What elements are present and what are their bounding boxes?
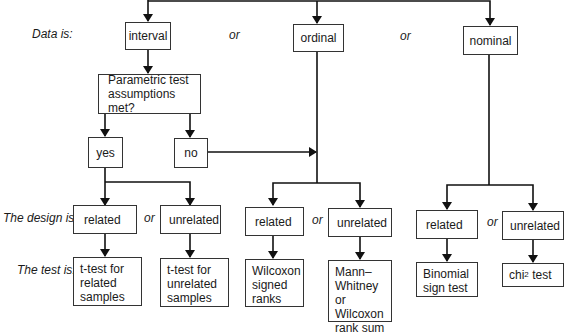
box-interval: interval [125,22,171,50]
box-design-ordinal-unrelated: unrelated [328,208,392,237]
box-parametric-question: Parametric test assumptions met? [98,74,201,114]
test-line: unrelated [167,277,217,291]
test-line: t-test for [167,263,217,277]
test-line: rank sum [335,321,385,335]
test-line: Wilcoxon [252,264,301,278]
test-line: Wilcoxon [335,307,385,321]
box-test-wilcoxon-signed: Wilcoxon signed ranks [245,259,304,307]
box-test-binomial: Binomial sign test [416,262,478,297]
or-label: or [144,211,155,225]
row-label-design: The design is: [3,211,78,225]
or-label: or [400,29,411,43]
box-nominal: nominal [463,26,518,55]
box-design-nominal-unrelated: unrelated [502,211,564,240]
test-chi: chi [509,268,524,282]
box-test-t-unrelated: t-test for unrelated samples [160,258,229,307]
test-line: Binomial [423,267,469,281]
box-ordinal: ordinal [293,24,344,52]
test-line: ranks [252,292,301,306]
or-label: or [229,28,240,42]
test-line: sign test [423,281,469,295]
test-line: signed [252,278,301,292]
test-line: related [80,276,125,290]
box-design-interval-unrelated: unrelated [160,205,221,234]
or-label: or [312,213,323,227]
test-line: Mann– [335,265,385,279]
box-yes: yes [88,137,123,168]
row-label-test: The test is: [17,263,76,277]
box-test-t-related: t-test for related samples [73,257,142,306]
or-label: or [487,215,498,229]
box-design-ordinal-related: related [245,207,304,236]
box-design-nominal-related: related [416,210,478,239]
test-line: t-test for [80,262,125,276]
row-label-data: Data is: [32,27,73,41]
box-test-mann-whitney: Mann– Whitney or Wilcoxon rank sum [328,260,392,322]
box-no: no [174,138,208,168]
test-chi-rest: test [529,268,552,282]
box-test-chi-squared: chi2 test [502,263,564,287]
test-line: Whitney or [335,279,385,307]
test-line: samples [167,291,217,305]
test-line: samples [80,290,125,304]
box-design-interval-related: related [73,205,137,234]
